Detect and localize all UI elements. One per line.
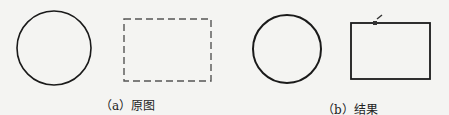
original-dashed-rectangle (124, 19, 211, 81)
result-circle (253, 15, 321, 83)
caption-b: （b）结果 (322, 100, 378, 115)
original-circle (17, 11, 91, 85)
figure-canvas (0, 0, 449, 115)
caption-a: （a）原图 (100, 96, 155, 113)
panel-a (17, 11, 211, 85)
panel-b (253, 15, 430, 83)
grip-point-icon (373, 21, 377, 25)
cursor-pointer-icon (377, 15, 382, 19)
result-solid-rectangle (351, 23, 430, 79)
